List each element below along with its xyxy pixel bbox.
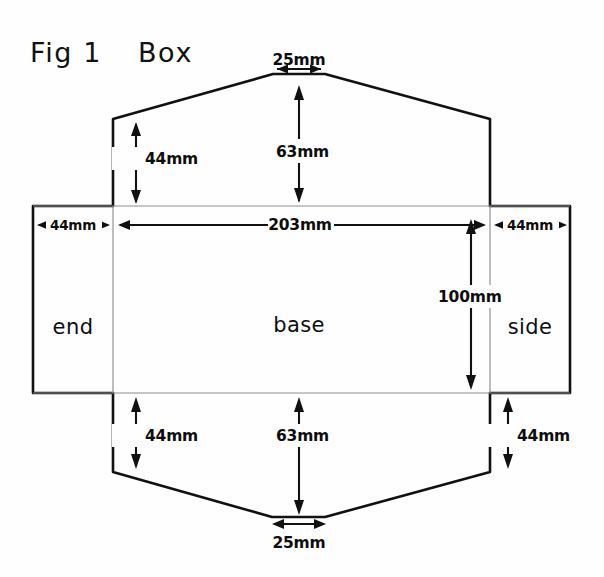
dimension-top-flap-tip-width-label: 25mm xyxy=(272,51,325,69)
dimension-top-flap-tip-width: 25mm xyxy=(272,51,325,74)
dimension-bottom-flap-tip-width-label: 25mm xyxy=(272,534,325,552)
dimension-bottom-left-flap-height: 44mm xyxy=(112,397,198,469)
dimension-end-panel-width: 44mm xyxy=(37,214,110,235)
dimension-bottom-flap-height-label: 63mm xyxy=(276,427,329,445)
figure-title-label: Box xyxy=(138,37,193,68)
dimension-side-panel-width-label: 44mm xyxy=(507,217,553,233)
dimension-top-left-flap-height-label: 44mm xyxy=(145,150,198,168)
dimension-bottom-flap-tip-width: 25mm xyxy=(272,519,326,552)
dimension-base-width-label: 203mm xyxy=(268,216,332,234)
dimension-bottom-left-flap-height-label: 44mm xyxy=(145,427,198,445)
dimension-base-height-label: 100mm xyxy=(438,288,502,306)
dimension-bottom-right-flap-height-label: 44mm xyxy=(517,427,570,445)
panel-label-base: base xyxy=(273,313,325,337)
box-net-drawing: Fig 1 Box end base side 25mm xyxy=(0,0,604,577)
dimension-end-panel-width-label: 44mm xyxy=(50,217,96,233)
dimension-top-flap-height: 63mm xyxy=(268,85,334,203)
dimension-bottom-flap-height: 63mm xyxy=(268,397,334,515)
box-net-diagram: Fig 1 Box end base side 25mm xyxy=(0,0,604,577)
dimension-base-height: 100mm xyxy=(434,219,504,390)
figure-number-label: Fig 1 xyxy=(30,37,102,68)
panel-label-side: side xyxy=(508,315,553,339)
dimension-base-width: 203mm xyxy=(118,213,486,235)
dimension-side-panel-width: 44mm xyxy=(494,214,567,235)
dimension-top-flap-height-label: 63mm xyxy=(276,143,329,161)
dimension-top-left-flap-height: 44mm xyxy=(112,122,198,204)
dimension-bottom-right-flap-height: 44mm xyxy=(484,397,570,469)
panel-label-end: end xyxy=(53,315,94,339)
